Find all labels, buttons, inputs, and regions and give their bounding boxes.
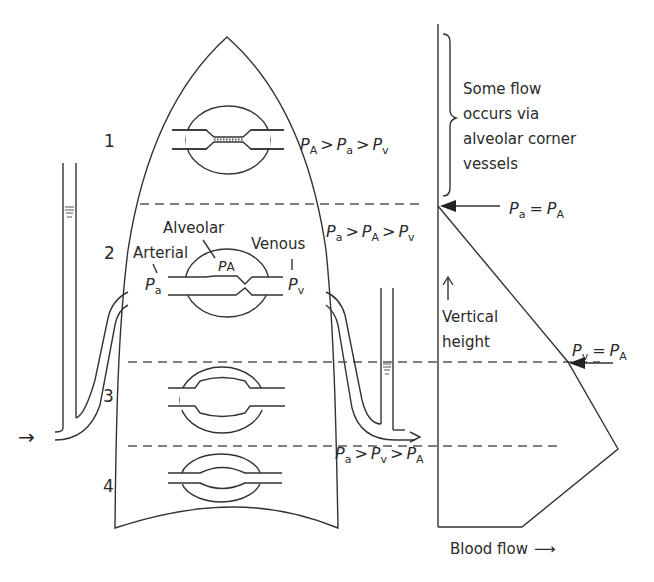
zone-number-3: 3 xyxy=(103,386,114,406)
pa-eq-pA-label: Pa=PA xyxy=(509,199,564,221)
y-axis-label: Vertical height xyxy=(442,308,503,351)
venous-label: Venous xyxy=(251,235,306,253)
x-axis-label: Blood flow⟶ xyxy=(450,540,556,558)
venous-pressure-label: Pv xyxy=(288,275,305,297)
zone-number-2: 2 xyxy=(104,243,115,263)
zone3-alveolus xyxy=(168,367,285,433)
corner-vessel-note: Some flow occurs via alveolar corner ves… xyxy=(463,80,581,173)
inflow-arrow: → xyxy=(18,425,35,449)
zone1-pressure-relation: PA>Pa>Pv xyxy=(300,135,389,157)
zone4-pressure-relation: Pa>Pv>PA xyxy=(335,444,424,466)
zone-number-4: 4 xyxy=(103,476,114,496)
arterial-pressure-label: Pa xyxy=(145,275,161,297)
zone2-pressure-relation: Pa>PA>Pv xyxy=(326,222,415,244)
alveolar-label: Alveolar xyxy=(163,219,225,237)
alveolar-pressure-label: PA xyxy=(218,258,235,274)
zone4-alveolus xyxy=(168,454,282,502)
zone1-alveolus xyxy=(172,106,284,174)
venous-manometer xyxy=(326,288,420,442)
pv-eq-pA-label: Pv=PA xyxy=(572,341,627,363)
lung-zones-diagram: → 1 2 3 4 PA>Pa>Pv Pa>PA>Pv Pa>Pv>PA Alv… xyxy=(0,0,654,582)
blood-flow-profile xyxy=(438,206,618,527)
arterial-label: Arterial xyxy=(133,244,188,262)
corner-vessel-bracket xyxy=(443,34,456,196)
zone-number-1: 1 xyxy=(104,131,115,151)
